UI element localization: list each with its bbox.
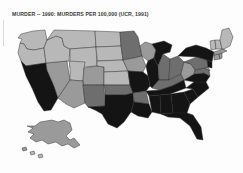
state-NM xyxy=(83,85,105,107)
page-title: MURDER -- 1990: MURDERS PER 100,000 (UCR… xyxy=(12,11,149,18)
state-HI xyxy=(30,151,35,155)
state-MN xyxy=(120,31,142,60)
state-SD xyxy=(96,46,123,61)
map-svg xyxy=(0,18,243,173)
state-LA xyxy=(131,102,152,118)
state-KS xyxy=(104,71,130,85)
state-AK-aleutians xyxy=(22,147,27,151)
state-FL xyxy=(161,113,203,140)
choropleth-figure: MURDER -- 1990: MURDERS PER 100,000 (UCR… xyxy=(0,0,243,173)
us-murder-rate-map xyxy=(0,18,243,173)
state-UT xyxy=(69,61,85,81)
state-HI-2 xyxy=(38,154,43,158)
state-ND xyxy=(95,31,121,47)
state-AK xyxy=(27,120,80,148)
state-ME xyxy=(220,28,233,49)
state-CO xyxy=(83,66,104,85)
state-OK xyxy=(104,85,133,95)
state-AL xyxy=(160,94,173,114)
